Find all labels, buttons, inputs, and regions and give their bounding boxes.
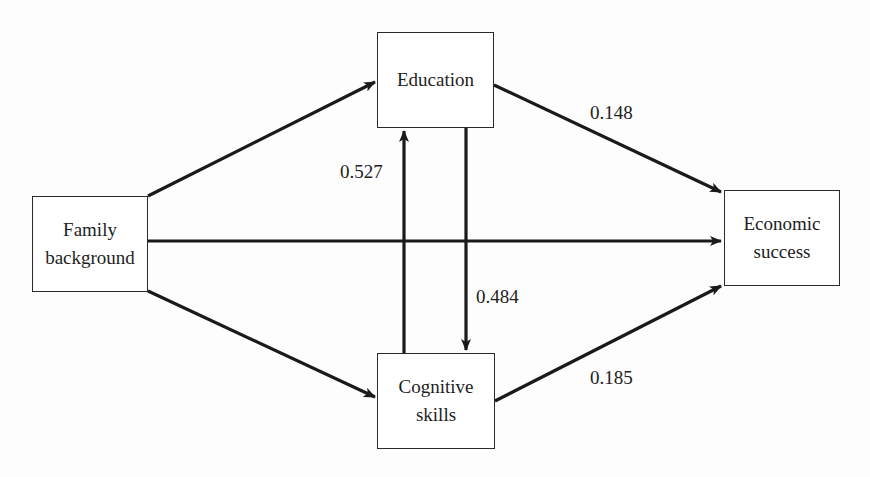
- arrow-family-to-cognitive: [148, 291, 375, 397]
- node-cognitive-skills-line1: Cognitive: [399, 373, 474, 401]
- node-economic-success-line1: Economic: [743, 210, 820, 238]
- node-education: Education: [377, 32, 494, 128]
- node-economic-success: Economic success: [724, 190, 840, 286]
- node-family-background: Family background: [32, 196, 148, 292]
- node-education-label: Education: [397, 66, 474, 94]
- coefficient-education-to-cognitive: 0.484: [476, 287, 519, 307]
- coefficient-cognitive-to-economic: 0.185: [590, 368, 633, 388]
- node-cognitive-skills-line2: skills: [416, 401, 456, 429]
- coefficient-cognitive-to-education: 0.527: [340, 162, 383, 182]
- node-cognitive-skills: Cognitive skills: [377, 353, 495, 449]
- coefficient-education-to-economic: 0.148: [590, 103, 633, 123]
- node-family-background-line2: background: [45, 244, 135, 272]
- node-family-background-line1: Family: [63, 216, 117, 244]
- node-economic-success-line2: success: [754, 238, 811, 266]
